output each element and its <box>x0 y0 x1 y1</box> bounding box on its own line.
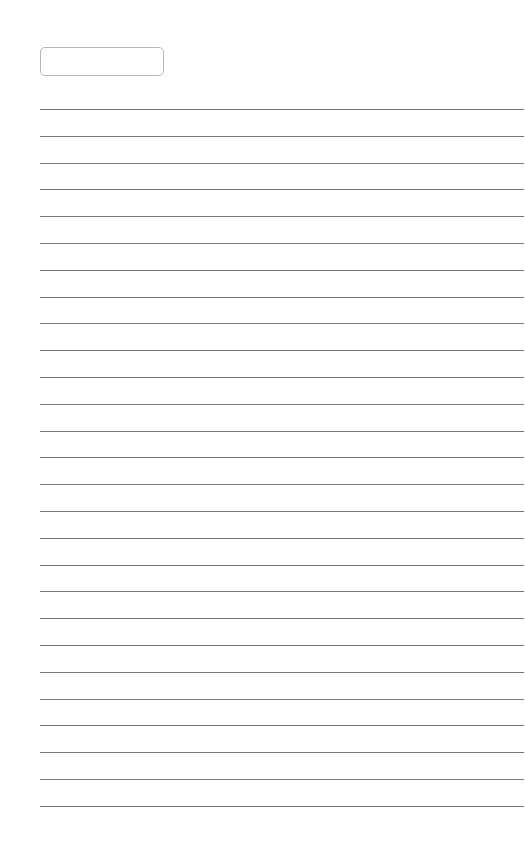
ruled-line <box>40 672 524 673</box>
ruled-line <box>40 538 524 539</box>
ruled-line <box>40 618 524 619</box>
ruled-line <box>40 779 524 780</box>
ruled-line <box>40 189 524 190</box>
name-box <box>40 47 164 76</box>
ruled-line <box>40 457 524 458</box>
ruled-line <box>40 216 524 217</box>
ruled-line <box>40 163 524 164</box>
ruled-line <box>40 350 524 351</box>
ruled-line <box>40 297 524 298</box>
ruled-line <box>40 565 524 566</box>
ruled-line <box>40 431 524 432</box>
ruled-line <box>40 725 524 726</box>
ruled-line <box>40 109 524 110</box>
ruled-line <box>40 323 524 324</box>
ruled-line <box>40 645 524 646</box>
ruled-line <box>40 591 524 592</box>
ruled-line <box>40 806 524 807</box>
ruled-line <box>40 404 524 405</box>
ruled-line <box>40 377 524 378</box>
ruled-line <box>40 270 524 271</box>
ruled-line <box>40 484 524 485</box>
ruled-line <box>40 243 524 244</box>
ruled-line <box>40 511 524 512</box>
ruled-line <box>40 136 524 137</box>
ruled-line <box>40 699 524 700</box>
ruled-line <box>40 752 524 753</box>
